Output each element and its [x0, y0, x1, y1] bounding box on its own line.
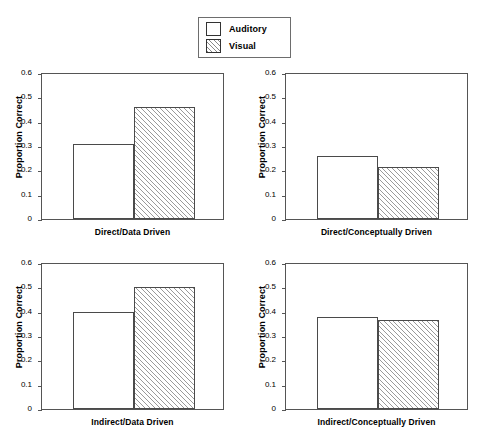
- y-axis-tick-mark: [38, 361, 42, 362]
- y-axis-tick-mark: [38, 74, 42, 75]
- y-axis-tick-mark: [282, 171, 286, 172]
- y-axis-tick-mark: [38, 220, 42, 221]
- x-axis-label: Direct/Data Driven: [41, 228, 224, 237]
- x-axis-baseline: [41, 219, 224, 220]
- plot-area: [41, 73, 224, 219]
- y-axis-tick-label: 0.2: [252, 356, 276, 364]
- y-axis-tick-mark: [282, 220, 286, 221]
- y-axis-tick-mark: [282, 410, 286, 411]
- y-axis-tick-mark: [282, 313, 286, 314]
- y-axis-tick-mark: [38, 264, 42, 265]
- y-axis-tick-label: 0.1: [8, 381, 32, 389]
- y-axis-tick-mark: [38, 288, 42, 289]
- y-axis-tick-label: 0: [8, 215, 32, 223]
- bar-direct-conceptually-driven-visual: [378, 167, 439, 219]
- bar-indirect-conceptually-driven-auditory: [317, 317, 378, 409]
- y-axis-tick-label: 0.6: [8, 69, 32, 77]
- y-axis-tick-label: 0: [252, 405, 276, 413]
- legend-label-visual: Visual: [229, 42, 256, 51]
- y-axis-tick-label: 0.6: [252, 259, 276, 267]
- hatched-square-swatch-icon: [206, 39, 221, 53]
- y-axis-tick-label: 0.1: [252, 191, 276, 199]
- x-axis-baseline: [41, 409, 224, 410]
- chart-panel-direct-conceptually-driven: Proportion Correct00.10.20.30.40.50.6Dir…: [239, 62, 478, 252]
- y-axis-tick-label: 0.6: [252, 69, 276, 77]
- y-axis-tick-mark: [282, 74, 286, 75]
- bar-direct-data-driven-auditory: [73, 144, 134, 219]
- y-axis-tick-label: 0.5: [252, 283, 276, 291]
- legend-item-visual: Visual: [206, 39, 256, 53]
- y-axis-tick-label: 0.1: [8, 191, 32, 199]
- y-axis-tick-labels: 00.10.20.30.40.50.6: [8, 62, 32, 252]
- plot-area: [41, 263, 224, 409]
- y-axis-tick-mark: [38, 410, 42, 411]
- y-axis-tick-label: 0.1: [252, 381, 276, 389]
- y-axis-tick-mark: [282, 147, 286, 148]
- legend-item-auditory: Auditory: [206, 22, 267, 36]
- y-axis-tick-label: 0.3: [252, 142, 276, 150]
- y-axis-tick-mark: [282, 361, 286, 362]
- y-axis-tick-mark: [282, 196, 286, 197]
- bar-indirect-data-driven-visual: [134, 287, 195, 409]
- y-axis-tick-label: 0.2: [8, 166, 32, 174]
- x-axis-label: Indirect/Data Driven: [41, 418, 224, 427]
- y-axis-tick-labels: 00.10.20.30.40.50.6: [252, 252, 276, 437]
- y-axis-tick-label: 0.4: [8, 118, 32, 126]
- y-axis-tick-label: 0.4: [8, 308, 32, 316]
- x-axis-label: Indirect/Conceptually Driven: [285, 418, 468, 427]
- bar-indirect-data-driven-auditory: [73, 312, 134, 409]
- y-axis-tick-mark: [38, 337, 42, 338]
- y-axis-tick-label: 0.5: [252, 93, 276, 101]
- legend-label-auditory: Auditory: [229, 25, 267, 34]
- y-axis-tick-label: 0.3: [8, 142, 32, 150]
- y-axis-tick-mark: [282, 337, 286, 338]
- x-axis-baseline: [285, 409, 468, 410]
- y-axis-tick-mark: [38, 313, 42, 314]
- y-axis-tick-mark: [38, 147, 42, 148]
- x-axis-baseline: [285, 219, 468, 220]
- plot-area: [285, 73, 468, 219]
- y-axis-tick-label: 0.2: [8, 356, 32, 364]
- y-axis-tick-label: 0.4: [252, 308, 276, 316]
- chart-panel-indirect-conceptually-driven: Proportion Correct00.10.20.30.40.50.6Ind…: [239, 252, 478, 437]
- y-axis-tick-label: 0: [252, 215, 276, 223]
- x-axis-label: Direct/Conceptually Driven: [285, 228, 468, 237]
- y-axis-tick-mark: [38, 98, 42, 99]
- bar-indirect-conceptually-driven-visual: [378, 320, 439, 409]
- y-axis-tick-label: 0.3: [8, 332, 32, 340]
- y-axis-tick-mark: [38, 196, 42, 197]
- y-axis-tick-mark: [38, 171, 42, 172]
- y-axis-tick-mark: [38, 123, 42, 124]
- y-axis-tick-label: 0.4: [252, 118, 276, 126]
- y-axis-tick-label: 0.5: [8, 93, 32, 101]
- bar-direct-data-driven-visual: [134, 107, 195, 219]
- y-axis-tick-mark: [282, 288, 286, 289]
- bar-direct-conceptually-driven-auditory: [317, 156, 378, 219]
- y-axis-tick-label: 0.6: [8, 259, 32, 267]
- y-axis-tick-mark: [282, 123, 286, 124]
- y-axis-tick-mark: [282, 98, 286, 99]
- y-axis-tick-labels: 00.10.20.30.40.50.6: [252, 62, 276, 252]
- y-axis-tick-label: 0.5: [8, 283, 32, 291]
- y-axis-tick-mark: [282, 264, 286, 265]
- chart-panel-direct-data-driven: Proportion Correct00.10.20.30.40.50.6Dir…: [0, 62, 239, 252]
- y-axis-tick-mark: [282, 386, 286, 387]
- y-axis-tick-label: 0: [8, 405, 32, 413]
- y-axis-tick-label: 0.2: [252, 166, 276, 174]
- plot-area: [285, 263, 468, 409]
- chart-legend: Auditory Visual: [198, 17, 291, 58]
- chart-panel-indirect-data-driven: Proportion Correct00.10.20.30.40.50.6Ind…: [0, 252, 239, 437]
- open-square-swatch-icon: [206, 22, 221, 36]
- y-axis-tick-mark: [38, 386, 42, 387]
- y-axis-tick-label: 0.3: [252, 332, 276, 340]
- y-axis-tick-labels: 00.10.20.30.40.50.6: [8, 252, 32, 437]
